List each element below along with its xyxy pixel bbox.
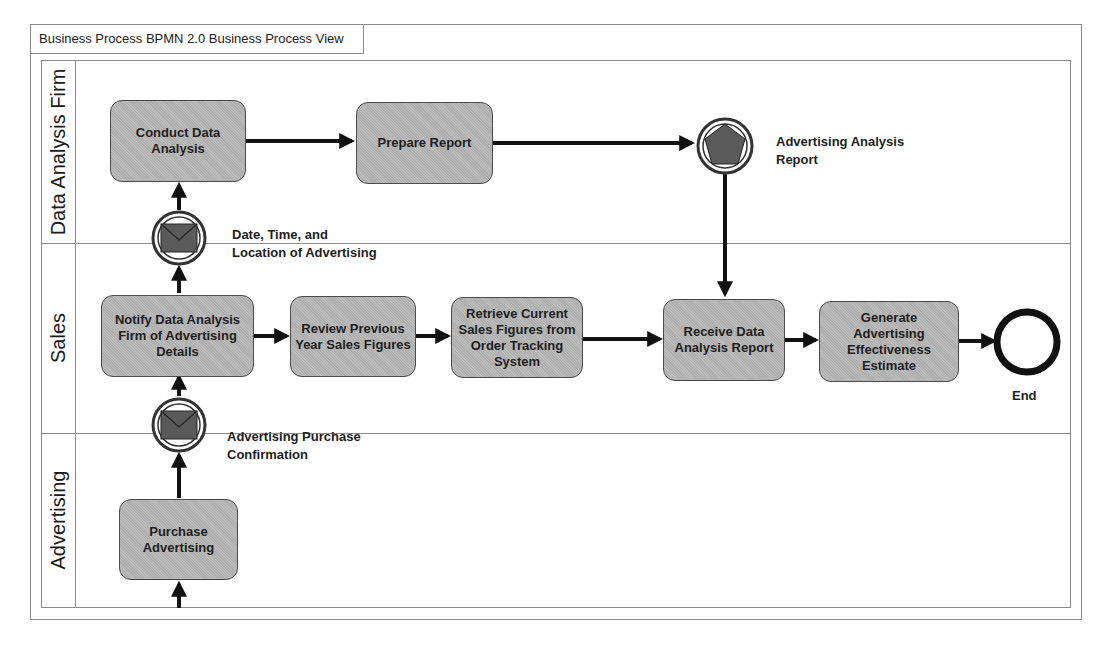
task-generate-advertising-estimate[interactable]: Generate Advertising Effectiveness Estim… bbox=[819, 301, 959, 382]
message-event-icon[interactable] bbox=[153, 212, 205, 264]
task-purchase-advertising[interactable]: Purchase Advertising bbox=[119, 499, 238, 580]
pentagon-event-icon[interactable] bbox=[698, 119, 752, 173]
signal-label-line: Advertising Analysis bbox=[776, 133, 904, 151]
message-label-line: Confirmation bbox=[227, 446, 361, 464]
task-prepare-report[interactable]: Prepare Report bbox=[356, 102, 493, 184]
task-retrieve-current-sales[interactable]: Retrieve Current Sales Figures from Orde… bbox=[451, 297, 583, 378]
message-label-date-time: Date, Time, and Location of Advertising bbox=[232, 226, 377, 262]
message-label-line: Advertising Purchase bbox=[227, 428, 361, 446]
end-event-icon[interactable] bbox=[997, 312, 1057, 372]
message-event-icon[interactable] bbox=[153, 399, 205, 451]
message-label-line: Date, Time, and bbox=[232, 226, 377, 244]
task-receive-data-analysis-report[interactable]: Receive Data Analysis Report bbox=[663, 299, 785, 381]
task-review-previous-year-sales[interactable]: Review Previous Year Sales Figures bbox=[290, 296, 416, 377]
task-conduct-data-analysis[interactable]: Conduct Data Analysis bbox=[110, 100, 246, 182]
signal-label-line: Report bbox=[776, 151, 904, 169]
end-event-label: End bbox=[1012, 387, 1037, 405]
message-label-line: Location of Advertising bbox=[232, 244, 377, 262]
signal-label-advertising-analysis-report: Advertising Analysis Report bbox=[776, 133, 904, 169]
message-label-purchase-confirmation: Advertising Purchase Confirmation bbox=[227, 428, 361, 464]
task-notify-data-analysis-firm[interactable]: Notify Data Analysis Firm of Advertising… bbox=[101, 295, 254, 377]
